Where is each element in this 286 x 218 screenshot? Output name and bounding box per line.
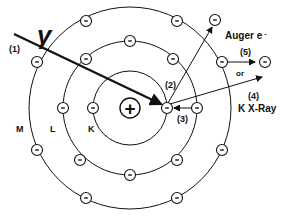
x-ray-label: K X-Ray xyxy=(238,103,277,114)
electron-l xyxy=(125,36,136,47)
electron-l xyxy=(168,54,179,65)
electron-m xyxy=(81,193,92,204)
electrons-group xyxy=(32,15,271,204)
photoelectric-atom-diagram: + γ (1) (2) (3) (4) (5) Auger e- or K X-… xyxy=(0,0,286,218)
step-3-label: (3) xyxy=(177,114,188,124)
electron-l xyxy=(75,155,86,166)
gamma-symbol: γ xyxy=(37,20,53,50)
electron-m xyxy=(217,57,228,68)
electron-m xyxy=(217,145,228,156)
step-5-label: (5) xyxy=(240,47,251,57)
electron-k xyxy=(88,103,99,114)
electron-l xyxy=(192,103,203,114)
electron-l xyxy=(125,170,136,181)
shell-l-label: L xyxy=(50,124,56,134)
electron-m xyxy=(172,16,183,27)
nucleus: + xyxy=(120,98,140,119)
auger-superscript: - xyxy=(264,30,267,37)
electron-m xyxy=(32,145,43,156)
photoelectron-arrow xyxy=(168,27,212,103)
step-4-label: (4) xyxy=(248,91,259,101)
auger-label: Auger e- xyxy=(225,30,267,41)
electron-m xyxy=(81,16,92,27)
electron-ejected-auger xyxy=(260,57,271,68)
electron-m xyxy=(172,193,183,204)
electron-l xyxy=(81,54,92,65)
nucleus-plus-sign: + xyxy=(124,98,135,119)
or-label: or xyxy=(236,69,244,78)
electron-k xyxy=(162,103,173,114)
electron-l xyxy=(58,103,69,114)
shell-m-label: M xyxy=(16,124,24,134)
electron-m xyxy=(32,57,43,68)
auger-label-text: Auger e xyxy=(225,30,263,41)
shell-k-label: K xyxy=(88,124,95,134)
electron-l xyxy=(172,155,183,166)
step-2-label: (2) xyxy=(165,80,176,90)
step-1-label: (1) xyxy=(9,44,20,54)
electron-ejected-photoelectron xyxy=(210,15,221,26)
